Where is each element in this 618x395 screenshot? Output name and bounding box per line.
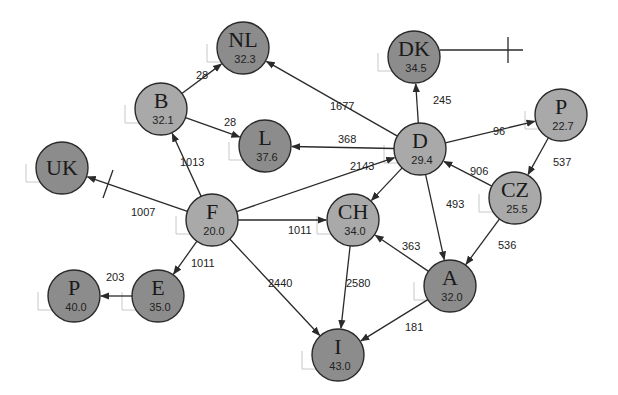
node-name: UK: [46, 155, 78, 180]
edge-label: 906: [470, 165, 488, 177]
edge-cz-to-a: [466, 219, 500, 264]
node-value: 35.0: [149, 301, 170, 313]
node-name: P: [68, 275, 80, 300]
edge-label: 537: [553, 156, 571, 168]
edge-label: 368: [338, 133, 356, 145]
edge-d-to-p_east: [445, 121, 534, 143]
node-name: CH: [338, 199, 369, 224]
edge-d-to-dk: [416, 84, 419, 123]
edge-label: 2143: [350, 160, 374, 172]
node-value: 43.0: [329, 360, 350, 372]
edge-d-to-nl: [266, 61, 397, 136]
edge-label: 2440: [268, 277, 292, 289]
node-name: NL: [228, 27, 257, 52]
node-value: 25.5: [506, 203, 527, 215]
edge-label: 1013: [180, 156, 204, 168]
node-d[interactable]: D29.4: [394, 123, 446, 175]
node-f[interactable]: F20.0: [186, 194, 238, 246]
node-p-west[interactable]: P40.0: [48, 270, 100, 322]
node-name: F: [206, 199, 218, 224]
node-cz[interactable]: CZ25.5: [489, 172, 541, 224]
node-dk[interactable]: DK34.5: [388, 31, 440, 83]
edge-d-to-ch: [372, 168, 403, 200]
edge-label: 2580: [346, 277, 370, 289]
edge-d-to-l: [292, 147, 394, 149]
edge-label: 203: [106, 271, 124, 283]
edge-label: 245: [433, 94, 451, 106]
external-links: [440, 37, 523, 63]
edge-label: 1011: [288, 224, 312, 236]
node-e[interactable]: E35.0: [132, 270, 184, 322]
edge-label: 96: [493, 125, 505, 137]
edge-p_east-to-cz: [528, 138, 548, 175]
edge-label: 28: [196, 69, 208, 81]
node-name: A: [442, 265, 458, 290]
node-name: B: [154, 88, 169, 113]
node-value: 34.5: [405, 62, 426, 74]
node-value: 32.0: [441, 291, 462, 303]
node-value: 22.7: [552, 120, 573, 132]
node-nl[interactable]: NL32.3: [217, 22, 269, 74]
node-name: CZ: [501, 177, 529, 202]
node-l[interactable]: L37.6: [239, 120, 291, 172]
node-a[interactable]: A32.0: [424, 260, 476, 312]
edge-label: 28: [224, 116, 236, 128]
node-value: 32.3: [234, 53, 255, 65]
node-i[interactable]: I43.0: [312, 329, 364, 381]
edge-label: 1677: [330, 100, 354, 112]
node-ch[interactable]: CH34.0: [327, 194, 379, 246]
border-tick-icon: [103, 170, 113, 198]
node-b[interactable]: B32.1: [135, 83, 187, 135]
node-p-east[interactable]: P22.7: [535, 89, 587, 141]
edge-label: 181: [405, 321, 423, 333]
node-name: E: [151, 275, 164, 300]
node-name: I: [334, 334, 341, 359]
node-name: P: [555, 94, 567, 119]
edge-label: 536: [498, 239, 516, 251]
node-name: L: [258, 125, 271, 150]
node-value: 37.6: [256, 151, 277, 163]
edge-label: 1011: [191, 257, 215, 269]
node-name: DK: [398, 36, 430, 61]
edge-label: 363: [402, 240, 420, 252]
edge-label: 1007: [131, 206, 155, 218]
node-value: 29.4: [411, 154, 432, 166]
node-name: D: [412, 128, 428, 153]
node-value: 32.1: [152, 114, 173, 126]
edge-d-to-a: [426, 174, 445, 259]
node-uk[interactable]: UK: [36, 142, 88, 194]
node-value: 40.0: [65, 301, 86, 313]
edge-label: 493: [446, 198, 464, 210]
node-value: 20.0: [203, 225, 224, 237]
node-value: 34.0: [344, 225, 365, 237]
network-diagram: NL32.3B32.1L37.6UKDK34.5D29.4P22.7F20.0C…: [0, 0, 618, 395]
